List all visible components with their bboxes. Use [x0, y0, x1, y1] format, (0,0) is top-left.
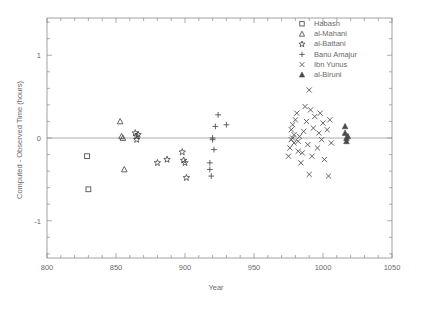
x-axis-title: Year: [208, 283, 224, 292]
x-tick-label: 850: [110, 263, 123, 272]
legend-label: Habash: [314, 19, 340, 28]
y-tick-label: -1: [34, 217, 41, 226]
y-axis-title: Computed - Observed Time (hours): [15, 81, 24, 199]
legend-label: al-Biruni: [314, 70, 342, 79]
legend-label: al-Battani: [314, 39, 346, 48]
plot-background: [0, 0, 425, 309]
x-tick-label: 800: [41, 263, 54, 272]
x-tick-label: 1050: [384, 263, 401, 272]
chart-root: 80085090095010001050 10-1 Habashal-Mahan…: [0, 0, 425, 309]
legend-label: al-Mahani: [314, 29, 347, 38]
y-tick-label: 0: [37, 134, 41, 143]
y-tick-label: 1: [37, 51, 41, 60]
x-tick-label: 950: [248, 263, 261, 272]
scatter-plot: 80085090095010001050 10-1 Habashal-Mahan…: [0, 0, 425, 309]
x-tick-label: 900: [179, 263, 192, 272]
legend-label: Banu Amajur: [314, 50, 357, 59]
legend-label: Ibn Yunus: [314, 60, 347, 69]
x-tick-label: 1000: [315, 263, 332, 272]
